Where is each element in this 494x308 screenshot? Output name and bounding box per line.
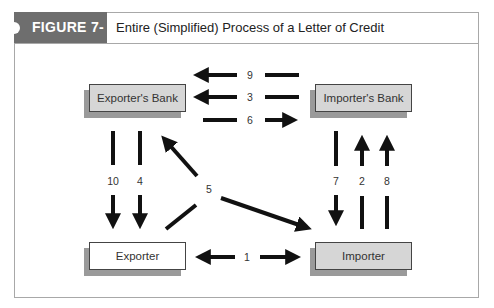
step-label-6: 6: [240, 114, 260, 126]
arrow-step-5-to-bank: [166, 141, 197, 176]
step-label-3: 3: [240, 91, 260, 103]
step-label-10: 10: [103, 175, 123, 187]
step-label-9: 9: [240, 69, 260, 81]
step-label-7: 7: [326, 175, 346, 187]
arrow-step-5-to-importer: [221, 198, 305, 227]
arrow-step-5-tail: [166, 205, 196, 229]
step-label-8: 8: [377, 175, 397, 187]
step-label-1: 1: [237, 251, 257, 263]
step-label-2: 2: [352, 175, 372, 187]
step-label-5: 5: [199, 183, 219, 195]
step-label-4: 4: [130, 175, 150, 187]
